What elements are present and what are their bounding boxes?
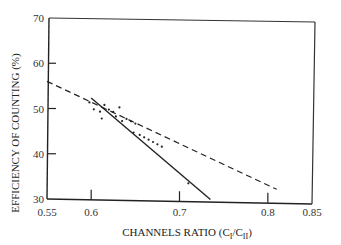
data-point: [130, 120, 132, 122]
data-point: [88, 101, 90, 103]
data-point: [147, 139, 149, 141]
x-tick-label: 0.85: [302, 206, 322, 218]
data-point: [187, 182, 189, 184]
y-tick-label: 30: [33, 193, 45, 205]
data-point: [115, 115, 117, 117]
data-point: [152, 141, 154, 143]
data-point: [156, 143, 158, 145]
data-point: [118, 106, 120, 108]
data-point: [132, 131, 134, 133]
right-border: [312, 22, 315, 204]
data-point: [101, 117, 103, 119]
data-point: [161, 146, 163, 148]
x-tick-label: 0.8: [261, 206, 275, 218]
data-point: [134, 122, 136, 124]
data-point: [139, 134, 141, 136]
x-tick-label: 0.7: [173, 206, 187, 218]
y-axis-title: EFFICIENCY OF COUNTING (%): [9, 53, 22, 213]
data-point: [121, 120, 123, 122]
data-point: [143, 136, 145, 138]
y-tick-label: 50: [33, 103, 45, 115]
data-point: [108, 108, 110, 110]
data-point: [99, 111, 101, 113]
x-tick-label: 0.6: [84, 206, 98, 218]
data-point: [112, 111, 114, 113]
top-border: [49, 18, 315, 22]
data-point: [125, 118, 127, 120]
y-tick-label: 60: [33, 57, 45, 69]
data-point: [103, 104, 105, 106]
plot-frame: [47, 18, 315, 204]
y-tick-label: 40: [33, 148, 45, 160]
x-tick-label: 0.55: [37, 206, 57, 218]
chart: 3040506070 0.550.60.70.80.85 EFFICIENCY …: [0, 0, 341, 245]
x-axis-title: CHANNELS RATIO (CI/CII): [122, 226, 252, 241]
data-point: [93, 108, 95, 110]
y-ticks: 3040506070: [33, 12, 56, 205]
y-tick-label: 70: [33, 12, 45, 24]
solid-fit-line: [91, 98, 210, 200]
series-layer: [47, 81, 277, 199]
dashed-fit-line: [47, 81, 277, 189]
